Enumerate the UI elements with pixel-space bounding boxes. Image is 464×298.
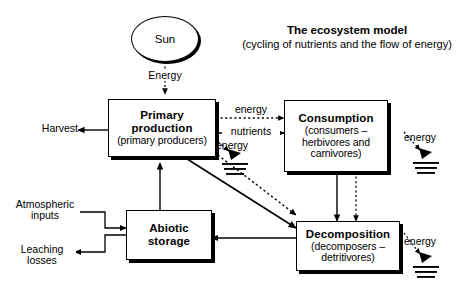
edge-label-pp-consumption-nutrients-text: nutrients xyxy=(231,125,271,137)
label-atmospheric-inputs-line-2: inputs xyxy=(31,209,59,221)
label-atmospheric-inputs-line-1: Atmospheric xyxy=(16,198,74,210)
diagram-title: The ecosystem model (cycling of nutrient… xyxy=(232,24,462,51)
node-sun-label: Sun xyxy=(155,33,175,45)
edge-atmospheric-inputs-to-abiotic-storage xyxy=(78,212,126,228)
ecosystem-model-diagram: The ecosystem model (cycling of nutrient… xyxy=(0,0,464,298)
node-abiotic-storage-title-2: storage xyxy=(148,235,190,248)
node-consumption-subtitle-1: (consumers – xyxy=(305,125,367,137)
node-abiotic-storage[interactable]: Abiotic storage xyxy=(126,210,212,260)
label-atmospheric-inputs: Atmospheric inputs xyxy=(10,199,80,222)
node-sun[interactable]: Sun xyxy=(131,16,199,62)
edge-label-sun-energy: Energy xyxy=(140,70,190,81)
edge-abiotic-storage-to-leaching-losses xyxy=(75,235,126,252)
energy-sink-icon-decomposition xyxy=(413,252,439,278)
edge-label-pp-consumption-energy-text: energy xyxy=(235,103,267,115)
label-leaching-losses-line-1: Leaching xyxy=(21,243,64,255)
node-consumption-title: Consumption xyxy=(298,112,373,125)
edge-label-consumption-energy-loss-text: energy xyxy=(404,131,436,143)
edge-label-harvest: Harvest xyxy=(30,123,78,134)
label-leaching-losses-line-2: losses xyxy=(27,254,57,266)
node-primary-production-subtitle: (primary producers) xyxy=(117,135,207,147)
diagram-title-subtitle: (cycling of nutrients and the flow of en… xyxy=(232,38,462,51)
node-decomposition[interactable]: Decomposition (decomposers – detritivore… xyxy=(296,221,400,271)
edge-label-pp-consumption-energy: energy xyxy=(225,104,277,115)
label-leaching-losses: Leaching losses xyxy=(8,244,76,267)
edge-label-harvest-text: Harvest xyxy=(42,122,78,134)
node-consumption[interactable]: Consumption (consumers – herbivores and … xyxy=(284,100,388,172)
node-abiotic-storage-title-1: Abiotic xyxy=(149,222,189,235)
node-primary-production[interactable]: Primary production (primary producers) xyxy=(108,99,216,157)
energy-sink-icon-consumption xyxy=(413,148,439,174)
node-decomposition-subtitle-2: detritivores) xyxy=(321,252,375,264)
diagram-title-main: The ecosystem model xyxy=(232,24,462,38)
edge-label-pp-energy-loss: energy xyxy=(216,140,260,151)
edge-label-pp-consumption-nutrients: nutrients xyxy=(222,126,280,137)
edge-label-consumption-energy-loss: energy xyxy=(404,132,460,143)
edge-label-sun-energy-text: Energy xyxy=(148,69,181,81)
node-primary-production-title-1: Primary xyxy=(140,109,184,122)
edge-label-decomposition-energy-loss-text: energy xyxy=(404,235,436,247)
edge-label-pp-energy-loss-text: energy xyxy=(216,139,248,151)
node-decomposition-title: Decomposition xyxy=(306,228,390,241)
edge-label-decomposition-energy-loss: energy xyxy=(404,236,460,247)
node-consumption-subtitle-3: carnivores) xyxy=(311,148,362,160)
